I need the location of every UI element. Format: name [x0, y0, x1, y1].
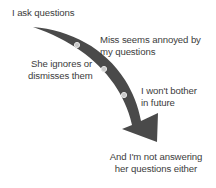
step-label-line: I won't bother — [141, 85, 197, 97]
milestone-dot-2 — [101, 66, 106, 71]
step-label-line: She ignores or — [28, 58, 92, 70]
step-label-line: my questions — [100, 46, 201, 58]
step-label-line: her questions either — [106, 163, 206, 175]
step-label-line: Miss seems annoyed by — [100, 34, 201, 46]
step-label-line: I ask questions — [12, 7, 75, 19]
milestone-dot-3 — [121, 92, 126, 97]
step-label-ask-questions: I ask questions — [12, 7, 75, 19]
vicious-cycle-diagram: I ask questions Miss seems annoyed by my… — [0, 0, 216, 188]
step-label-line: in future — [141, 97, 197, 109]
step-label-line: And I'm not answering — [106, 151, 206, 163]
step-label-wont-bother: I won't bother in future — [141, 85, 197, 108]
step-label-ignores-dismisses: She ignores or dismisses them — [28, 58, 92, 81]
step-label-line: dismisses them — [28, 70, 92, 82]
step-label-not-answering: And I'm not answering her questions eith… — [106, 151, 206, 174]
step-label-miss-annoyed: Miss seems annoyed by my questions — [100, 34, 201, 57]
milestone-dot-1 — [74, 42, 79, 47]
